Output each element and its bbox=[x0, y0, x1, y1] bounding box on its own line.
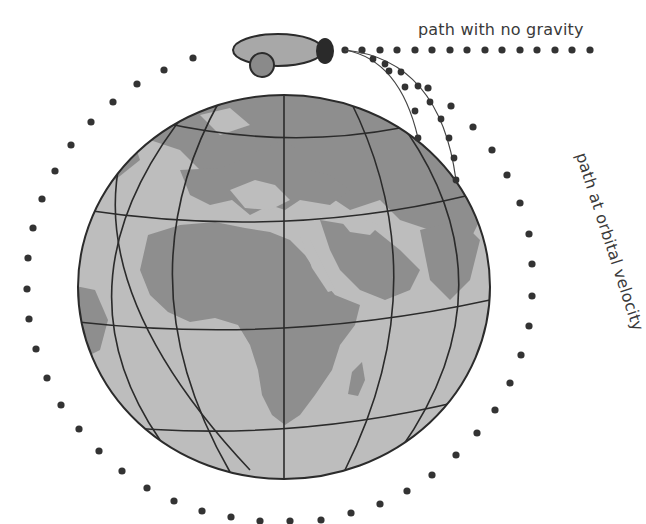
no-gravity-label: path with no gravity bbox=[418, 20, 584, 39]
earth-globe bbox=[70, 92, 490, 479]
mountain-peak bbox=[250, 53, 274, 77]
cannon-barrel bbox=[233, 34, 323, 66]
cannon-on-mountain bbox=[233, 34, 334, 77]
no-gravity-path-dots bbox=[341, 46, 593, 53]
cannonball-icon bbox=[316, 38, 334, 64]
